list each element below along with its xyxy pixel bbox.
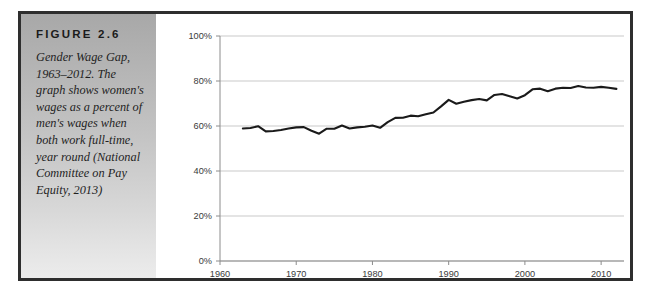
x-tick-label: 1990	[438, 269, 458, 278]
line-chart: 0%20%40%60%80%100% 196019701980199020002…	[156, 14, 630, 278]
chart-area: 0%20%40%60%80%100% 196019701980199020002…	[156, 14, 630, 278]
x-tick-label: 2010	[591, 269, 611, 278]
x-tick-label: 1980	[362, 269, 382, 278]
figure-number-label: FIGURE 2.6	[36, 28, 144, 40]
figure-box: FIGURE 2.6 Gender Wage Gap, 1963–2012. T…	[18, 11, 633, 281]
x-tick-label: 1960	[210, 269, 230, 278]
figure-caption-text: Gender Wage Gap, 1963–2012. The graph sh…	[36, 49, 144, 198]
y-tick-label: 0%	[199, 256, 212, 266]
y-tick-label: 40%	[194, 166, 212, 176]
y-tick-label: 20%	[194, 211, 212, 221]
figure-inner: FIGURE 2.6 Gender Wage Gap, 1963–2012. T…	[21, 14, 630, 278]
caption-panel: FIGURE 2.6 Gender Wage Gap, 1963–2012. T…	[21, 14, 156, 278]
y-tick-label: 80%	[194, 76, 212, 86]
x-tick-label: 2000	[515, 269, 535, 278]
x-axis-group	[220, 261, 624, 265]
y-tick-label: 100%	[189, 31, 213, 41]
gridlines-group	[220, 36, 624, 261]
y-tick-labels-group: 0%20%40%60%80%100%	[189, 31, 213, 266]
y-axis-group	[216, 36, 220, 261]
x-tick-label: 1970	[286, 269, 306, 278]
y-tick-label: 60%	[194, 121, 212, 131]
x-tick-labels-group: 196019701980199020002010	[210, 269, 612, 278]
